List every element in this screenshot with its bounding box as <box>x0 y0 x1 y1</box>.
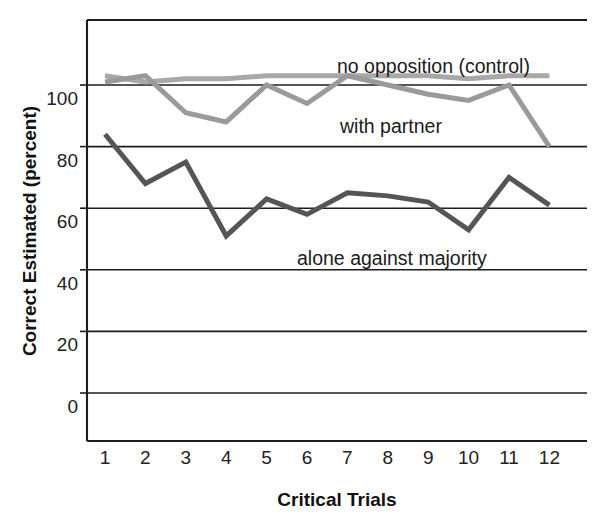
x-tick-label-2: 2 <box>140 447 151 468</box>
y-tick-label-0: 0 <box>67 396 78 417</box>
x-tick-label-10: 10 <box>458 447 479 468</box>
y-tick-label-80: 80 <box>57 150 78 171</box>
series-label-with-partner: with partner <box>339 115 442 137</box>
line-chart-svg: 020406080100 123456789101112 no oppositi… <box>0 0 604 526</box>
x-tick-label-6: 6 <box>302 447 313 468</box>
x-tick-label-11: 11 <box>499 447 519 468</box>
series-label-alone-against-majority: alone against majority <box>297 247 487 269</box>
y-axis-title: Correct Estimated (percent) <box>19 106 40 356</box>
x-tick-label-9: 9 <box>423 447 434 468</box>
y-tick-label-100: 100 <box>46 88 78 109</box>
series-label-no-opposition-control-: no opposition (control) <box>337 55 530 77</box>
x-axis-title: Critical Trials <box>277 489 396 510</box>
x-tick-label-12: 12 <box>539 447 560 468</box>
chart-figure: 020406080100 123456789101112 no oppositi… <box>0 0 604 526</box>
x-tick-label-7: 7 <box>342 447 353 468</box>
x-tick-label-3: 3 <box>181 447 192 468</box>
x-tick-label-1: 1 <box>100 447 111 468</box>
x-tick-label-8: 8 <box>383 447 394 468</box>
y-tick-label-20: 20 <box>57 334 78 355</box>
x-tick-label-4: 4 <box>221 447 232 468</box>
y-tick-label-40: 40 <box>57 273 78 294</box>
y-tick-label-60: 60 <box>57 211 78 232</box>
x-tick-label-5: 5 <box>261 447 272 468</box>
